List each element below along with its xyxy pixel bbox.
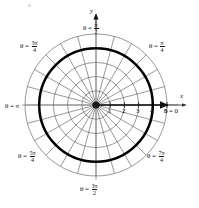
theta-symbol: θ = <box>149 43 158 50</box>
fraction-7pi-over-4: 7π 4 <box>158 150 166 164</box>
theta-symbol: θ = <box>18 153 27 160</box>
angle-label-theta-3pi-4: θ = 3π 4 <box>20 40 39 54</box>
theta-value: π <box>16 103 20 110</box>
fraction-3pi-over-2: 3π 2 <box>91 183 99 197</box>
fraction-denominator: 4 <box>159 156 164 163</box>
theta-symbol: θ = <box>164 108 173 115</box>
angle-label-theta-5pi-4: θ = 5π 4 <box>18 150 37 164</box>
fraction-denominator: 2 <box>94 28 99 35</box>
fraction-3pi-over-4: 3π 4 <box>31 40 39 54</box>
polar-plot-figure: y x 1 2 3 4 5 θ = 0 θ = π 4 θ = π 2 <box>0 0 199 208</box>
fraction-denominator: 4 <box>32 46 37 53</box>
fraction-pi-over-4: π 4 <box>160 40 165 54</box>
radial-tick-label-1: 1 <box>108 108 112 115</box>
angle-label-theta-3pi-2: θ = 3π 2 <box>80 183 99 197</box>
angle-label-theta-0: θ = 0 <box>164 108 178 115</box>
theta-symbol: θ = <box>5 103 14 110</box>
angle-label-theta-7pi-4: θ = 7π 4 <box>147 150 166 164</box>
angle-label-theta-pi-4: θ = π 4 <box>149 40 165 54</box>
fraction-denominator: 4 <box>160 46 165 53</box>
theta-symbol: θ = <box>20 43 29 50</box>
origin-point <box>92 101 99 108</box>
radial-tick-label-3: 3 <box>136 108 140 115</box>
angle-label-theta-pi: θ = π <box>5 103 19 110</box>
theta-value: 0 <box>175 108 179 115</box>
polar-grid-svg <box>0 0 199 208</box>
theta-symbol: θ = <box>147 153 156 160</box>
radial-tick-label-4: 4 <box>150 108 154 115</box>
theta-symbol: θ = <box>83 25 92 32</box>
theta-symbol: θ = <box>80 186 89 193</box>
scan-artifact-speck <box>28 4 31 7</box>
fraction-denominator: 4 <box>30 156 35 163</box>
x-axis-label: x <box>180 93 183 100</box>
fraction-denominator: 2 <box>92 189 97 196</box>
radial-tick-label-2: 2 <box>122 108 126 115</box>
fraction-pi-over-2: π 2 <box>94 22 99 36</box>
angle-label-theta-pi-2: θ = π 2 <box>83 22 99 36</box>
fraction-5pi-over-4: 5π 4 <box>29 150 37 164</box>
y-axis-label: y <box>90 8 93 15</box>
